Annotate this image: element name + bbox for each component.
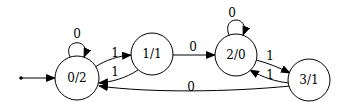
edge-label: 0 <box>189 40 197 54</box>
edge-2-0-self: 0 <box>228 6 245 35</box>
edge-3-1-to-0-2: 0 <box>99 80 290 94</box>
edge-label: 0 <box>73 27 81 41</box>
edge-label: 1 <box>266 68 274 82</box>
state-label: 3/1 <box>299 73 318 87</box>
state-label: 1/1 <box>142 47 161 61</box>
edge-0-2-self: 0 <box>69 27 86 57</box>
state-node-0-2: 0/2 <box>55 56 99 100</box>
edge-0-2-to-1-1: 1 <box>95 46 131 67</box>
edge-label: 0 <box>228 6 236 20</box>
edge-label: 1 <box>111 46 119 60</box>
state-label: 2/0 <box>226 48 245 62</box>
edge-1-1-to-2-0: 0 <box>173 40 215 55</box>
state-node-3-1: 3/1 <box>288 59 330 101</box>
edge-label: 1 <box>266 49 274 63</box>
state-node-2-0: 2/0 <box>215 34 257 76</box>
state-node-1-1: 1/1 <box>131 33 173 75</box>
edge-label: 0 <box>187 80 195 94</box>
state-label: 0/2 <box>67 71 86 85</box>
start-arrow <box>19 76 55 80</box>
edge-1-1-to-0-2: 1 <box>99 65 138 83</box>
state-diagram: 0 1 1 0 0 1 1 0 0/2 1/1 2/0 <box>0 0 344 102</box>
edge-label: 1 <box>111 65 119 79</box>
